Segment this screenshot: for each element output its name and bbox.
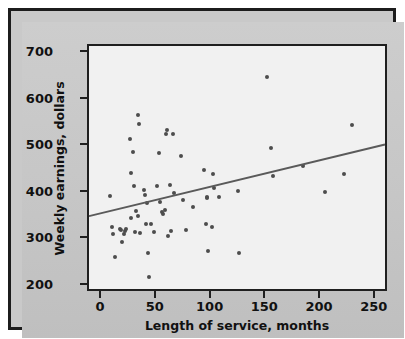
figure-outer-frame: Weekly earnings, dollars Length of servi… — [8, 8, 396, 330]
y-axis-tick — [80, 143, 87, 145]
x-axis-tick-label: 50 — [125, 300, 185, 313]
x-axis-tick-label: 0 — [70, 300, 130, 313]
x-axis-tick-label: 250 — [344, 300, 404, 313]
y-axis-title: Weekly earnings, dollars — [52, 44, 67, 294]
scatter-plot-figure: Weekly earnings, dollars Length of servi… — [0, 0, 405, 339]
x-axis-title: Length of service, months — [87, 318, 387, 333]
y-axis-tick — [80, 236, 87, 238]
x-axis-tick — [99, 291, 101, 298]
y-axis-tick-label: 600 — [0, 92, 53, 105]
plot-area — [87, 44, 387, 291]
regression-line-layer — [89, 46, 385, 289]
y-axis-tick — [80, 190, 87, 192]
x-axis-tick — [209, 291, 211, 298]
y-axis-tick-label: 200 — [0, 278, 53, 291]
x-axis-tick-label: 100 — [180, 300, 240, 313]
x-axis-tick-label: 200 — [289, 300, 349, 313]
regression-line — [89, 145, 385, 217]
y-axis-tick — [80, 283, 87, 285]
x-axis-tick — [373, 291, 375, 298]
y-axis-tick-label: 400 — [0, 185, 53, 198]
x-axis-tick — [318, 291, 320, 298]
y-axis-tick-label: 300 — [0, 231, 53, 244]
y-axis-tick — [80, 97, 87, 99]
x-axis-tick — [263, 291, 265, 298]
y-axis-tick-label: 700 — [0, 45, 53, 58]
x-axis-tick — [154, 291, 156, 298]
y-axis-tick-label: 500 — [0, 138, 53, 151]
x-axis-tick-label: 150 — [234, 300, 294, 313]
y-axis-tick — [80, 50, 87, 52]
